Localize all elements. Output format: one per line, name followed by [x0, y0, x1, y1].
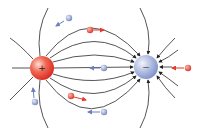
svg-text:+: +: [38, 63, 46, 73]
test-charge-negative-center: [90, 65, 107, 71]
svg-text:−: −: [142, 62, 150, 72]
dipole-diagram: + −: [0, 0, 200, 133]
test-charge-negative-left: [32, 88, 38, 105]
positive-charge: +: [30, 56, 54, 80]
test-charge-positive-top: [87, 27, 104, 33]
test-charge-positive-right: [172, 65, 191, 71]
test-charge-negative-bottom: [88, 109, 107, 115]
test-charge-positive-bottom: [68, 93, 86, 100]
negative-charge: −: [134, 55, 158, 79]
test-charge-negative-top: [56, 15, 72, 26]
field-lines-svg: + −: [0, 0, 200, 133]
